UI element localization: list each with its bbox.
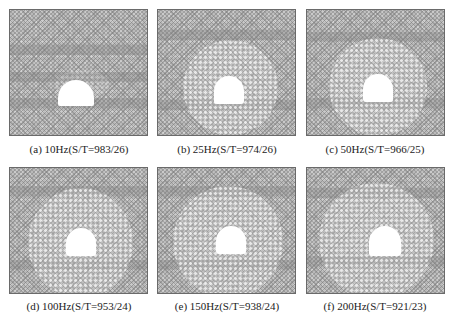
caption-e: (e) 150Hz(S/T=938/24) — [152, 300, 302, 312]
caption-d: (d) 100Hz(S/T=953/24) — [4, 300, 154, 312]
caption-b: (b) 25Hz(S/T=974/26) — [152, 143, 302, 155]
panel-e-particle-simulation — [157, 167, 296, 294]
tunnel-opening — [369, 226, 401, 256]
caption-a: (a) 10Hz(S/T=983/26) — [4, 143, 154, 155]
panel-c-particle-simulation — [306, 9, 445, 136]
tunnel-opening — [216, 226, 246, 254]
caption-f: (f) 200Hz(S/T=921/23) — [300, 300, 450, 312]
panel-a-particle-simulation — [9, 9, 148, 136]
caption-c: (c) 50Hz(S/T=966/25) — [300, 143, 450, 155]
tunnel-opening — [214, 76, 244, 104]
tunnel-opening — [66, 228, 96, 256]
panel-f-particle-simulation — [306, 167, 445, 294]
tunnel-opening — [363, 74, 393, 102]
panel-d-particle-simulation — [9, 167, 148, 294]
panel-b-particle-simulation — [157, 9, 296, 136]
